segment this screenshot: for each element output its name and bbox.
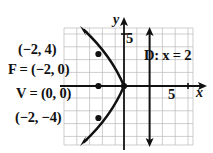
label-focus: F = (−2, 0) [8, 62, 69, 77]
directrix-line [146, 27, 154, 147]
point-focus [95, 83, 101, 89]
point-upper [95, 51, 101, 57]
label-vertex: V = (0, 0) [16, 86, 71, 101]
figure-canvas: (−2, 4) F = (−2, 0) V = (0, 0) (−2, −4) … [0, 0, 213, 153]
x-axis-label: x [196, 86, 203, 100]
x-axis [60, 82, 207, 90]
label-point-lower: (−2, −4) [15, 110, 61, 125]
point-lower [95, 115, 101, 121]
y-axis-tick-label: 5 [126, 31, 133, 46]
x-axis-tick-label: 5 [168, 87, 175, 102]
label-directrix: D: x = 2 [144, 48, 191, 63]
point-vertex [121, 83, 127, 89]
y-axis-label: y [113, 13, 119, 27]
label-point-upper: (−2, 4) [18, 42, 56, 57]
